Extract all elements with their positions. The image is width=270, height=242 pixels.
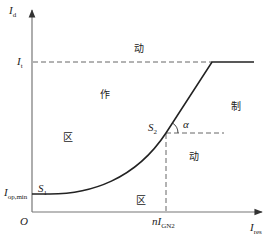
differential-protection-characteristic-diagram: Id Ires O It Iop,min nIGN2 S1 S2 α 动 作 区… <box>0 0 270 242</box>
alpha-angle-arc <box>173 123 179 133</box>
y-axis-label: Id <box>9 5 16 16</box>
iop-min-label: Iop,min <box>4 187 27 198</box>
s2-sub: 2 <box>154 128 158 136</box>
x-axis-label: Ires <box>250 222 262 233</box>
s2-main: S <box>148 121 154 133</box>
region-label-dong-right: 动 <box>189 152 199 162</box>
region-label-zuo: 作 <box>100 90 110 100</box>
region-label-qu-left: 区 <box>63 133 73 143</box>
x-axis-label-sub: res <box>254 228 262 236</box>
region-label-zhi: 制 <box>231 102 241 112</box>
nign2-label: nIGN2 <box>152 216 175 227</box>
y-axis-label-sub: d <box>13 11 17 19</box>
it-label-sub: t <box>21 62 23 70</box>
s1-label: S1 <box>38 183 47 194</box>
origin-text: O <box>20 215 28 227</box>
diagram-canvas <box>0 0 270 242</box>
region-label-dong-top: 动 <box>134 44 144 54</box>
nign2-sub: GN2 <box>161 222 175 230</box>
s2-label: S2 <box>148 122 157 133</box>
it-label: It <box>17 56 23 67</box>
alpha-text: α <box>183 118 189 130</box>
alpha-label: α <box>183 119 189 130</box>
s1-sub: 1 <box>44 189 48 197</box>
characteristic-curve <box>32 62 254 194</box>
s1-main: S <box>38 182 44 194</box>
iop-min-label-sub: op,min <box>8 193 28 201</box>
region-label-qu-bottom: 区 <box>136 196 146 206</box>
origin-label: O <box>20 216 28 227</box>
